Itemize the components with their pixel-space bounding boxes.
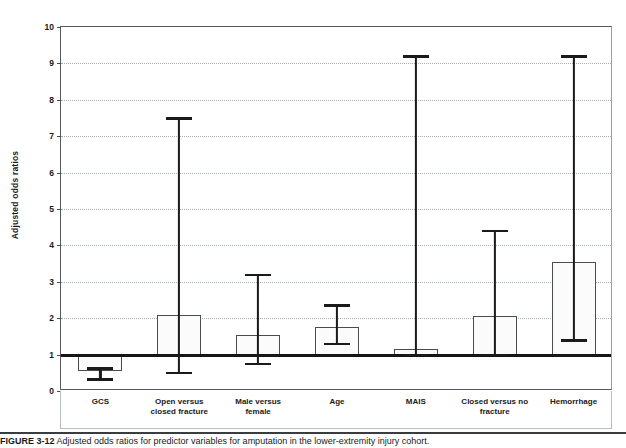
error-bar-line xyxy=(257,275,259,364)
gridline xyxy=(61,173,611,174)
error-bar-cap-upper xyxy=(561,55,587,58)
y-axis-tick xyxy=(57,27,61,28)
error-bar-cap-upper xyxy=(324,304,350,307)
y-axis-tick xyxy=(57,245,61,246)
error-bar-cap-upper xyxy=(403,55,429,58)
y-axis-tick xyxy=(57,282,61,283)
figure-caption: FIGURE 3-12 Adjusted odds ratios for pre… xyxy=(0,436,626,448)
error-bar-cap-upper xyxy=(87,367,113,370)
error-bar-cap-lower xyxy=(87,378,113,381)
y-axis-title-text: Adjusted odds ratios xyxy=(10,151,20,240)
error-bar-cap-lower xyxy=(403,354,429,357)
y-axis-tick xyxy=(57,318,61,319)
y-axis-tick xyxy=(57,209,61,210)
plot-area: 012345678910 xyxy=(60,26,612,390)
y-axis-tick-label: 8 xyxy=(49,95,54,105)
error-bar-cap-lower xyxy=(561,339,587,342)
y-axis-tick-label: 3 xyxy=(49,277,54,287)
error-bar-line xyxy=(415,56,417,354)
gridline xyxy=(61,63,611,64)
x-axis-category-label: Hemorrhage xyxy=(525,397,622,407)
y-axis-tick xyxy=(57,100,61,101)
gridline xyxy=(61,209,611,210)
figure-caption-text: Adjusted odds ratios for predictor varia… xyxy=(57,436,430,446)
error-bar-line xyxy=(336,305,338,343)
error-bar-cap-upper xyxy=(245,274,271,277)
error-bar-cap-lower xyxy=(245,363,271,366)
gridline xyxy=(61,245,611,246)
x-axis-category-band: GCSOpen versusclosed fractureMale versus… xyxy=(60,391,612,429)
error-bar-cap-lower xyxy=(482,354,508,357)
y-axis-tick-label: 5 xyxy=(49,204,54,214)
y-axis-tick xyxy=(57,136,61,137)
error-bar-line xyxy=(494,231,496,355)
figure-container: Adjusted odds ratios 012345678910 GCSOpe… xyxy=(0,0,626,448)
y-axis-tick xyxy=(57,63,61,64)
error-bar-line xyxy=(178,118,180,373)
error-bar-cap-lower xyxy=(166,372,192,375)
y-axis-tick-label: 2 xyxy=(49,313,54,323)
y-axis-tick-label: 7 xyxy=(49,131,54,141)
reference-line-or-1 xyxy=(61,354,611,357)
y-axis-tick-label: 10 xyxy=(45,22,54,32)
gridline xyxy=(61,136,611,137)
error-bar-cap-lower xyxy=(324,343,350,346)
error-bar-cap-upper xyxy=(482,230,508,233)
y-axis-tick-label: 6 xyxy=(49,168,54,178)
gridline xyxy=(61,282,611,283)
error-bar-line xyxy=(572,56,574,340)
y-axis-tick-label: 0 xyxy=(49,386,54,396)
y-axis-tick xyxy=(57,173,61,174)
y-axis-title: Adjusted odds ratios xyxy=(2,0,28,390)
error-bar-cap-upper xyxy=(166,117,192,120)
y-axis-tick-label: 1 xyxy=(49,350,54,360)
y-axis-tick-label: 9 xyxy=(49,58,54,68)
figure-caption-label: FIGURE 3-12 xyxy=(0,436,55,446)
caption-divider xyxy=(0,432,626,434)
gridline xyxy=(61,100,611,101)
y-axis-tick-label: 4 xyxy=(49,240,54,250)
